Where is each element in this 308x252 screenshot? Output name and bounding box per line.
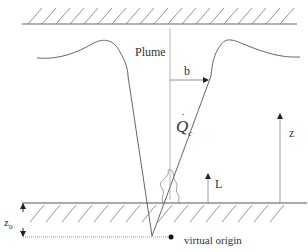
plume-right-boundary <box>152 40 300 236</box>
heat-release-label: Qc <box>176 118 192 138</box>
virtual-origin-offset-label: z0 <box>4 217 12 231</box>
heat-release-subscript: c <box>188 128 192 138</box>
flame-height-label: L <box>215 178 222 190</box>
ceiling-wall <box>22 8 297 24</box>
height-label: z <box>289 127 294 139</box>
virtual-origin-label: virtual origin <box>184 235 242 246</box>
plume-label: Plume <box>135 46 166 58</box>
half-width-label: b <box>184 65 190 77</box>
z0-subscript: 0 <box>9 223 13 231</box>
floor <box>22 203 307 222</box>
plume-left-boundary <box>37 40 152 236</box>
virtual-origin-point <box>169 235 174 240</box>
plume-diagram <box>0 0 308 252</box>
heat-release-symbol: Q <box>176 117 188 136</box>
